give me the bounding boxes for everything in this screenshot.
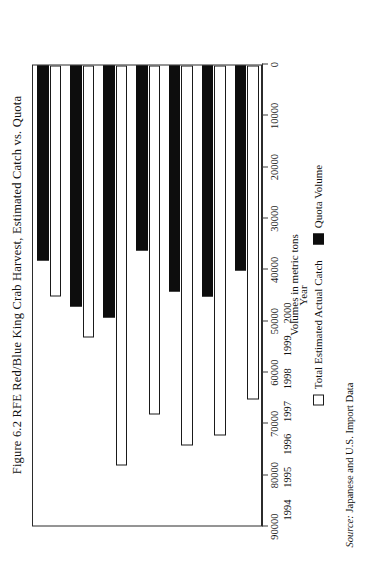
value-axis-tick (262, 114, 268, 115)
value-axis-tick (262, 63, 268, 64)
figure: Figure 6.2 RFE Red/Blue King Crab Harves… (0, 0, 388, 569)
value-axis-tick-label: 0 (269, 61, 280, 66)
bar-catch-2000 (247, 65, 259, 399)
value-axis-tick (262, 474, 268, 475)
bar-quota-1996 (103, 65, 115, 317)
bar-catch-1994 (50, 65, 62, 296)
legend-label-catch: Total Estimated Actual Catch (312, 260, 324, 389)
category-axis-label-1996: 1996 (282, 433, 293, 454)
value-axis-tick-label: 10000 (269, 102, 280, 128)
legend-label-quota: Quota Volume (312, 164, 324, 227)
bar-quota-1995 (70, 65, 82, 306)
value-axis-tick (262, 320, 268, 321)
value-axis-tick (262, 217, 268, 218)
value-axis-tick (262, 371, 268, 372)
legend: Total Estimated Actual Catch Quota Volum… (312, 0, 324, 569)
value-axis-ticks: 9000080000700006000050000400003000020000… (262, 63, 268, 526)
legend-swatch-quota-icon (313, 233, 324, 244)
bar-quota-1999 (202, 65, 214, 296)
legend-item-catch: Total Estimated Actual Catch (312, 260, 324, 405)
rotated-figure-canvas: Figure 6.2 RFE Red/Blue King Crab Harves… (0, 0, 388, 569)
source-label: Source: (344, 515, 355, 547)
value-axis-tick (262, 268, 268, 269)
value-axis-tick-label: 60000 (269, 359, 280, 385)
value-axis-tick-label: 80000 (269, 462, 280, 488)
value-axis-tick-label: 30000 (269, 205, 280, 231)
value-axis-tick (262, 422, 268, 423)
bar-quota-2000 (235, 65, 247, 270)
category-axis-label-2000: 2000 (282, 302, 293, 323)
value-axis-tick-label: 40000 (269, 256, 280, 282)
bar-catch-1995 (83, 65, 95, 337)
category-axis-label-1997: 1997 (282, 401, 293, 422)
bar-quota-1997 (136, 65, 148, 250)
bar-catch-1999 (214, 65, 226, 435)
bar-catch-1996 (116, 65, 128, 465)
value-axis-tick (262, 525, 268, 526)
category-axis-label-1998: 1998 (282, 368, 293, 389)
source-text: Japanese and U.S. Import Data (344, 382, 355, 515)
category-axis-label-1995: 1995 (282, 466, 293, 487)
value-axis-tick-label: 90000 (269, 513, 280, 539)
category-axis-label-1994: 1994 (282, 499, 293, 520)
value-axis-tick-label: 50000 (269, 308, 280, 334)
value-axis-tick (262, 166, 268, 167)
bar-catch-1998 (181, 65, 193, 445)
value-axis-tick-label: 20000 (269, 154, 280, 180)
value-axis-tick-label: 70000 (269, 410, 280, 436)
category-axis-label-1999: 1999 (282, 335, 293, 356)
bar-quota-1994 (37, 65, 49, 260)
legend-swatch-catch-icon (313, 394, 324, 405)
bar-quota-1998 (169, 65, 181, 291)
bar-catch-1997 (149, 65, 161, 414)
bar-series-container (33, 65, 261, 525)
source-note: Source: Japanese and U.S. Import Data (344, 382, 355, 547)
figure-title: Figure 6.2 RFE Red/Blue King Crab Harves… (10, 0, 25, 569)
plot-area (32, 64, 262, 526)
legend-item-quota: Quota Volume (312, 164, 324, 243)
category-axis-title: Year (297, 285, 309, 305)
